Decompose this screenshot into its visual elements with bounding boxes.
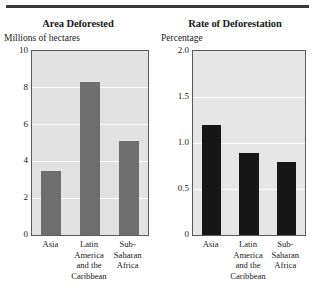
y-axis-tick-label: 2 — [24, 193, 29, 202]
category-label-line: Latin — [70, 239, 109, 250]
y-axis-tick-label: 10 — [19, 46, 28, 55]
x-axis-category-label: LatinAmericaand theCaribbean — [70, 239, 109, 281]
category-label-line: America — [229, 250, 266, 261]
x-axis-category-labels-right: AsiaLatinAmericaand theCaribbeanSub-Saha… — [192, 239, 306, 297]
x-axis-category-label: LatinAmericaand theCaribbean — [229, 239, 266, 281]
y-axis-ticks-right: 00.51.01.52.0 — [159, 50, 189, 236]
x-axis-category-labels-left: AsiaLatinAmericaand theCaribbeanSub-Saha… — [31, 239, 149, 297]
y-axis-tick-label: 6 — [24, 119, 29, 128]
plot-area-left — [31, 50, 149, 236]
y-axis-tick-label: 8 — [24, 82, 29, 91]
x-axis-category-label: Sub-SaharanAfrica — [267, 239, 304, 271]
category-label-line: Latin — [229, 239, 266, 250]
chart-panel-rate-of-deforestation: Rate of Deforestation Percentage 00.51.0… — [159, 18, 311, 298]
bar-latin-america-and-the-caribbean — [80, 82, 100, 235]
x-axis-category-label: Asia — [31, 239, 70, 250]
category-label-line: Africa — [267, 260, 304, 271]
bar-sub-saharan-africa — [277, 162, 296, 235]
category-label-line: Caribbean — [70, 271, 109, 282]
x-axis-category-label: Asia — [192, 239, 229, 250]
bar-asia — [41, 171, 61, 235]
y-axis-unit-label-left: Millions of hectares — [4, 33, 80, 44]
y-axis-tick-label: 0 — [185, 230, 190, 239]
figure-canvas: Area Deforested Millions of hectares 024… — [0, 0, 317, 302]
top-rule-divider — [6, 5, 309, 8]
gridline — [193, 97, 305, 98]
category-label-line: Caribbean — [229, 271, 266, 282]
category-label-line: Saharan — [108, 250, 147, 261]
y-axis-tick-label: 0 — [24, 230, 29, 239]
y-axis-unit-label-right: Percentage — [161, 33, 203, 44]
category-label-line: Sub- — [267, 239, 304, 250]
chart-panel-area-deforested: Area Deforested Millions of hectares 024… — [2, 18, 154, 298]
bar-sub-saharan-africa — [119, 141, 139, 235]
y-axis-tick-label: 2.0 — [178, 46, 189, 55]
category-label-line: and the — [229, 260, 266, 271]
category-label-line: Africa — [108, 260, 147, 271]
y-axis-tick-label: 1.5 — [178, 92, 189, 101]
category-label-line: Asia — [192, 239, 229, 250]
chart-title-right: Rate of Deforestation — [159, 18, 311, 30]
bar-latin-america-and-the-caribbean — [239, 153, 258, 235]
y-axis-tick-label: 0.5 — [178, 184, 189, 193]
bar-asia — [202, 125, 221, 235]
category-label-line: Saharan — [267, 250, 304, 261]
y-axis-ticks-left: 0246810 — [2, 50, 28, 236]
x-axis-category-label: Sub-SaharanAfrica — [108, 239, 147, 271]
chart-title-left: Area Deforested — [2, 18, 154, 30]
y-axis-tick-label: 1.0 — [178, 138, 189, 147]
plot-area-right — [192, 50, 306, 236]
category-label-line: America — [70, 250, 109, 261]
y-axis-tick-label: 4 — [24, 156, 29, 165]
category-label-line: Asia — [31, 239, 70, 250]
category-label-line: and the — [70, 260, 109, 271]
category-label-line: Sub- — [108, 239, 147, 250]
